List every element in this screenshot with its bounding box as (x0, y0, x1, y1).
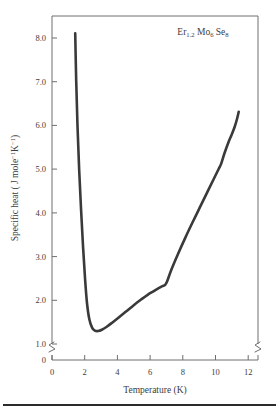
y-tick-label-5: 5.0 (35, 164, 46, 174)
plot-frame (52, 16, 258, 360)
y-axis-ticks (52, 38, 57, 344)
y-axis-title: Specific heat ( J mole−1K−1) (9, 135, 21, 241)
y-title-sup2: −1 (9, 138, 16, 145)
svg-text:Specific heat ( J mole−1K−1): Specific heat ( J mole−1K−1) (9, 135, 21, 241)
formula-el3: Se (216, 27, 226, 37)
x-tick-label-10: 10 (211, 367, 220, 377)
y-tick-label-7: 7.0 (35, 77, 46, 87)
x-tick-label-6: 6 (148, 367, 152, 377)
y-title-sup1: −1 (9, 152, 16, 159)
x-tick-label-8: 8 (181, 367, 185, 377)
formula-el3-sub: 8 (225, 31, 229, 38)
y-tick-label-1: 1.0 (35, 339, 46, 349)
x-tick-label-0: 0 (50, 367, 54, 377)
y-title-lead: Specific heat ( J mole (10, 159, 21, 241)
sample-formula-annotation: Er1.2 Mo6 Se8 (177, 27, 229, 38)
x-tick-label-4: 4 (115, 367, 120, 377)
y-tick-label-zero: 0 (42, 355, 46, 365)
formula-el1-sub: 1.2 (186, 31, 194, 38)
y-tick-label-8: 8.0 (35, 33, 46, 43)
y-tick-label-3: 3.0 (35, 252, 46, 262)
y-title-tail: ) (10, 135, 21, 138)
figure-bottom-rule (3, 404, 276, 406)
x-tick-label-12: 12 (244, 367, 253, 377)
y-tick-label-4: 4.0 (35, 208, 46, 218)
x-axis-title: Temperature (K) (123, 385, 186, 396)
formula-el2: Mo (197, 27, 210, 37)
y-axis-break-right (255, 342, 261, 352)
specific-heat-curve (75, 33, 238, 331)
axis-break-marks (49, 342, 261, 352)
y-tick-label-2: 2.0 (35, 295, 46, 305)
y-axis-tick-labels: 8.0 7.0 6.0 5.0 4.0 3.0 2.0 1.0 0 (35, 33, 46, 365)
chart-figure: 8.0 7.0 6.0 5.0 4.0 3.0 2.0 1.0 0 0 2 4 … (0, 0, 279, 419)
x-axis-ticks (52, 355, 248, 360)
specific-heat-plot: 8.0 7.0 6.0 5.0 4.0 3.0 2.0 1.0 0 0 2 4 … (0, 0, 279, 419)
y-tick-label-6: 6.0 (35, 120, 46, 130)
x-tick-label-2: 2 (83, 367, 87, 377)
x-axis-tick-labels: 0 2 4 6 8 10 12 (50, 367, 253, 377)
